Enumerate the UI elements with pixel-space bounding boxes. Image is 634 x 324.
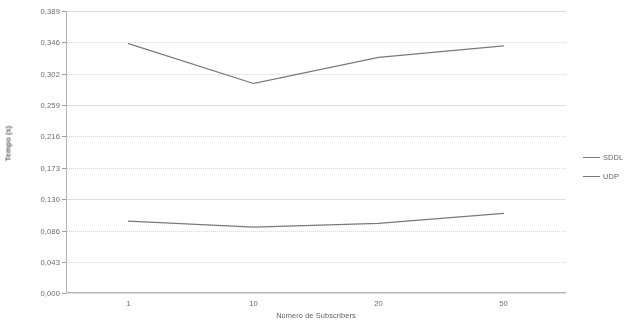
y-axis-tick-labels: 0,3890,3460,3020,2590,2160,1730,1300,086… <box>14 0 60 324</box>
x-axis-tick-label: 10 <box>234 299 274 308</box>
y-axis-tick-label: 0,216 <box>14 132 60 141</box>
y-axis-tick-label: 0,302 <box>14 70 60 79</box>
legend-item-sddl[interactable]: SDDL <box>583 148 633 167</box>
plot-area <box>66 11 566 293</box>
y-axis-tick-label: 0,130 <box>14 194 60 203</box>
y-axis-tick-label: 0,173 <box>14 163 60 172</box>
y-axis-tick-label: 0,346 <box>14 38 60 47</box>
series-line-udp <box>129 213 504 227</box>
y-axis-tick-label: 0,086 <box>14 226 60 235</box>
y-axis-tick-label: 0,000 <box>14 289 60 298</box>
tick-mark <box>62 293 66 294</box>
chart-legend: SDDLUDP <box>583 148 633 186</box>
line-chart: Tempo (s) 0,3890,3460,3020,2590,2160,173… <box>0 0 634 324</box>
x-axis-tick-label: 50 <box>484 299 524 308</box>
x-axis-tick-label: 20 <box>359 299 399 308</box>
x-axis-title: Número de Subscribers <box>66 311 566 320</box>
series-lines <box>66 11 566 293</box>
y-axis-tick-label: 0,389 <box>14 7 60 16</box>
legend-label: SDDL <box>603 153 623 162</box>
legend-line-swatch <box>583 176 600 177</box>
y-axis-title: Tempo (s) <box>4 108 13 180</box>
y-axis-tick-label: 0,259 <box>14 101 60 110</box>
y-axis-tick-label: 0,043 <box>14 257 60 266</box>
series-line-sddl <box>129 44 504 84</box>
legend-label: UDP <box>603 172 619 181</box>
legend-line-swatch <box>583 157 600 158</box>
gridline <box>66 293 566 294</box>
legend-item-udp[interactable]: UDP <box>583 167 633 186</box>
x-axis-tick-label: 1 <box>109 299 149 308</box>
